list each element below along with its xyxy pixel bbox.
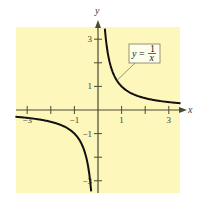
x-axis-label: x: [187, 104, 193, 115]
y-tick-label: 1: [88, 81, 93, 91]
y-axis-arrow-icon: [95, 20, 101, 28]
x-tick-label: −1: [70, 115, 80, 125]
x-tick-label: 1: [119, 115, 124, 125]
x-tick-label: 3: [167, 115, 172, 125]
equation-lhs: y: [131, 48, 137, 59]
x-axis-arrow-icon: [179, 107, 187, 113]
y-tick-label: 3: [88, 34, 93, 44]
x-tick-label: −3: [22, 115, 32, 125]
y-tick-label: −1: [82, 129, 92, 139]
equation-denominator: x: [149, 52, 155, 63]
chart: −3−11331−1−3 x y y = 1 x: [0, 0, 203, 204]
y-axis-label: y: [94, 5, 100, 16]
equation-equals: =: [139, 48, 145, 59]
y-tick-label: −3: [82, 176, 92, 186]
